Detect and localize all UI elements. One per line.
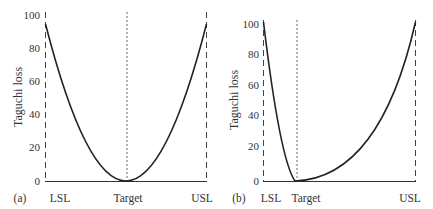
ytick-20: 20	[29, 141, 41, 153]
ytick-40: 40	[248, 109, 260, 121]
panel-a: 100 80 60 40 20 0 Taguchi loss (a) LSL T…	[11, 9, 213, 205]
ytick-60: 60	[248, 79, 260, 91]
usl-label: USL	[399, 192, 421, 204]
panel-label: (a)	[14, 192, 27, 205]
panel-b: 100 80 60 40 20 0 Taguchi loss (b) LSL T…	[227, 18, 421, 205]
ytick-40: 40	[29, 108, 41, 120]
ytick-0: 0	[254, 175, 260, 187]
lsl-label: LSL	[50, 192, 70, 204]
ytick-60: 60	[29, 75, 41, 87]
target-label: Target	[292, 192, 322, 205]
ytick-100: 100	[243, 18, 260, 30]
ytick-80: 80	[248, 48, 260, 60]
figure: 100 80 60 40 20 0 Taguchi loss (a) LSL T…	[0, 0, 433, 209]
usl-label: USL	[191, 192, 213, 204]
loss-curve-right	[295, 22, 416, 181]
ytick-100: 100	[24, 9, 41, 21]
loss-curve	[46, 24, 207, 181]
ytick-20: 20	[248, 140, 260, 152]
loss-curve-left	[264, 22, 296, 181]
ytick-0: 0	[35, 175, 41, 187]
lsl-label: LSL	[261, 192, 281, 204]
ytick-80: 80	[29, 42, 41, 54]
y-axis-label: Taguchi loss	[11, 67, 25, 127]
target-label: Target	[114, 192, 144, 205]
panel-label: (b)	[232, 192, 246, 205]
y-axis-label: Taguchi loss	[227, 70, 241, 130]
